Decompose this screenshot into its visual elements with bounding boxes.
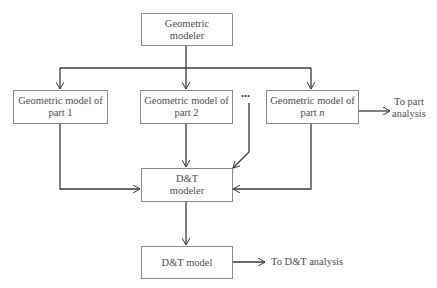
arrow-ellipsis-to-dt-modeler <box>233 103 249 168</box>
part2-line1: Geometric model of <box>144 95 229 107</box>
partn-line1: Geometric model of <box>270 95 355 107</box>
partn-line2: part n <box>270 107 355 119</box>
geometric-modeler-box: Geometric modeler <box>141 13 233 46</box>
part1-line2: part 1 <box>18 107 103 119</box>
dt-modeler-box: D&T modeler <box>141 168 233 202</box>
partn-variable: n <box>319 107 324 118</box>
arrow-part1-to-dt-modeler <box>60 123 140 189</box>
ellipsis: ... <box>241 86 250 101</box>
dt-model-line1: D&T model <box>162 257 213 269</box>
geometric-modeler-line2: modeler <box>165 30 209 42</box>
to-part-analysis-line1: To part <box>392 96 426 108</box>
dt-model-box: D&T model <box>141 246 233 279</box>
dt-modeler-line2: modeler <box>170 185 204 197</box>
part1-model-box: Geometric model of part 1 <box>13 90 108 124</box>
part2-model-box: Geometric model of part 2 <box>140 90 233 124</box>
partn-line2-prefix: part <box>300 107 319 118</box>
dt-modeler-line1: D&T <box>170 173 204 185</box>
part1-line1: Geometric model of <box>18 95 103 107</box>
part2-line2: part 2 <box>144 107 229 119</box>
partn-model-box: Geometric model of part n <box>266 90 359 124</box>
to-dt-analysis-label: To D&T analysis <box>271 256 343 268</box>
to-part-analysis-line2: analysis <box>392 108 426 120</box>
geometric-modeler-line1: Geometric <box>165 18 209 30</box>
to-part-analysis-label: To part analysis <box>392 96 426 120</box>
